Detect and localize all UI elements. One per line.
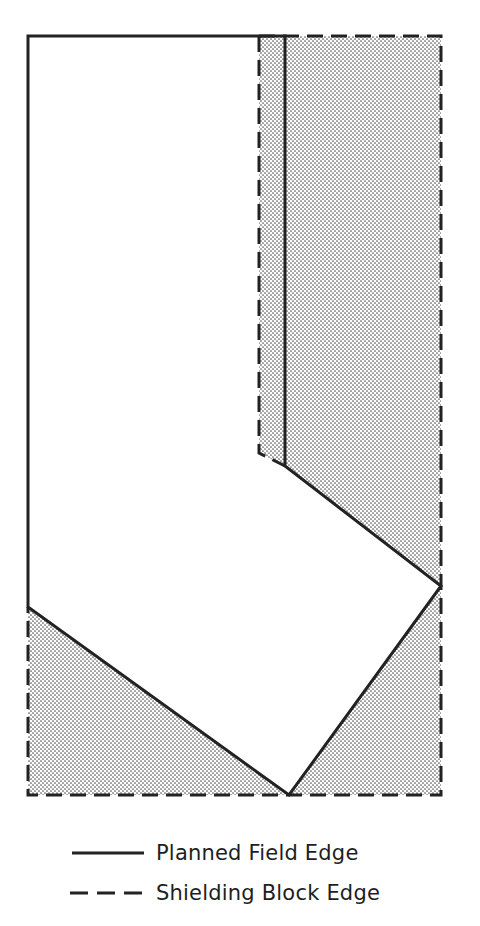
legend-label: Shielding Block Edge: [156, 881, 380, 905]
legend-item-planned-field-edge: Planned Field Edge: [70, 833, 430, 873]
dashed-line-icon: [70, 883, 146, 903]
solid-line-icon: [70, 843, 146, 863]
legend: Planned Field Edge Shielding Block Edge: [70, 833, 430, 913]
field-shielding-diagram: [0, 0, 480, 830]
legend-label: Planned Field Edge: [156, 841, 359, 865]
shielding-block-shaded-area: [28, 36, 441, 795]
legend-item-shielding-block-edge: Shielding Block Edge: [70, 873, 430, 913]
